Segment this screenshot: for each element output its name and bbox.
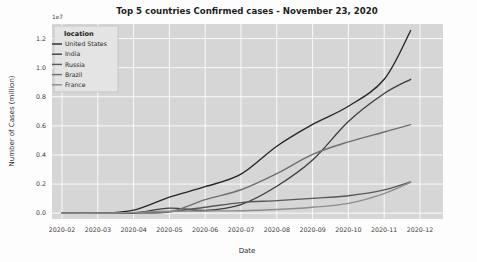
x-tick-label-7: 2020-09 <box>299 226 325 233</box>
x-tick-label-4: 2020-06 <box>192 226 218 233</box>
y-axis-offset-text: 1e7 <box>52 14 63 20</box>
x-axis-tick-labels: 2020-022020-032020-042020-052020-062020-… <box>49 226 433 233</box>
x-tick-label-5: 2020-07 <box>228 226 254 233</box>
x-tick-label-2: 2020-04 <box>120 226 146 233</box>
line-chart: 2020-022020-032020-042020-052020-062020-… <box>0 0 477 262</box>
y-tick-label-3: 0.6 <box>36 122 46 129</box>
x-tick-label-8: 2020-10 <box>335 226 361 233</box>
y-tick-label-0: 0.0 <box>36 209 46 216</box>
legend-label-france[interactable]: France <box>65 81 86 88</box>
x-axis-label: Date <box>239 247 256 255</box>
legend-label-brazil[interactable]: Brazil <box>65 71 83 78</box>
x-tick-label-0: 2020-02 <box>49 226 75 233</box>
chart-figure: 2020-022020-032020-042020-052020-062020-… <box>0 0 477 262</box>
y-tick-label-2: 0.4 <box>36 151 46 158</box>
chart-title: Top 5 countries Confirmed cases - Novemb… <box>116 6 377 16</box>
legend-title: location <box>64 30 94 38</box>
y-axis-label: Number of Cases (million) <box>8 75 16 166</box>
y-tick-label-4: 0.8 <box>36 93 46 100</box>
x-tick-label-10: 2020-12 <box>407 226 433 233</box>
y-tick-label-1: 0.2 <box>36 180 46 187</box>
y-tick-label-5: 1.0 <box>36 64 46 71</box>
legend-label-russia[interactable]: Russia <box>65 61 85 68</box>
x-tick-label-9: 2020-11 <box>371 226 397 233</box>
y-tick-label-6: 1.2 <box>36 35 46 42</box>
legend-label-united-states[interactable]: United States <box>65 40 107 47</box>
legend-label-india[interactable]: India <box>65 50 80 57</box>
x-tick-label-3: 2020-05 <box>156 226 182 233</box>
x-tick-label-6: 2020-08 <box>264 226 290 233</box>
chart-legend[interactable]: locationUnited StatesIndiaRussiaBrazilFr… <box>52 26 118 92</box>
x-tick-label-1: 2020-03 <box>85 226 111 233</box>
